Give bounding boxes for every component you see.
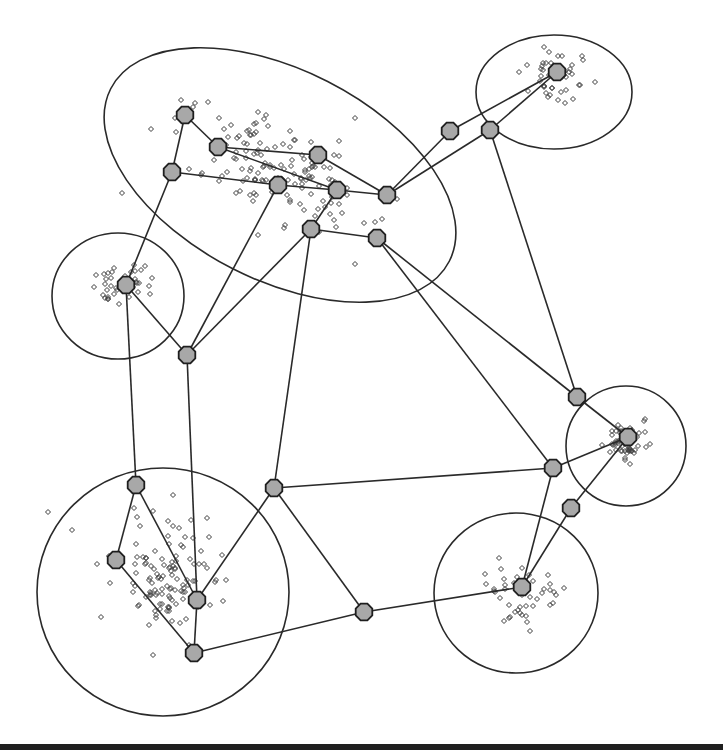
cluster-boundary-c2 bbox=[476, 35, 632, 149]
data-point bbox=[525, 63, 530, 68]
data-point bbox=[531, 579, 536, 584]
data-point bbox=[220, 553, 225, 558]
data-point bbox=[548, 582, 553, 587]
data-point bbox=[337, 202, 342, 207]
edge-n7-n11 bbox=[387, 130, 490, 195]
data-point bbox=[166, 534, 171, 539]
graph-node-n18 bbox=[563, 500, 580, 517]
data-point bbox=[183, 535, 188, 540]
data-point bbox=[174, 602, 179, 607]
data-point bbox=[550, 86, 555, 91]
data-point bbox=[535, 597, 540, 602]
data-point bbox=[524, 604, 529, 609]
data-point bbox=[571, 97, 576, 102]
graph-node-n19 bbox=[128, 477, 145, 494]
data-point bbox=[170, 619, 175, 624]
edge-n22-n24 bbox=[194, 612, 364, 653]
data-point bbox=[101, 293, 106, 298]
data-point bbox=[337, 139, 342, 144]
graph-node-n23 bbox=[266, 480, 283, 497]
data-point bbox=[502, 619, 507, 624]
data-point bbox=[166, 519, 171, 524]
graph-node-n13 bbox=[118, 277, 135, 294]
data-point bbox=[135, 555, 140, 560]
data-point bbox=[199, 549, 204, 554]
data-point bbox=[160, 592, 165, 597]
graph-node-n21 bbox=[189, 592, 206, 609]
data-point bbox=[226, 135, 231, 140]
graph-node-n22 bbox=[186, 645, 203, 662]
edge-n15-n16 bbox=[577, 397, 628, 437]
data-point bbox=[206, 100, 211, 105]
data-point bbox=[332, 218, 337, 223]
graph-node-n6 bbox=[329, 182, 346, 199]
graph-node-n4 bbox=[270, 177, 287, 194]
data-point bbox=[484, 582, 489, 587]
data-point bbox=[542, 45, 547, 50]
edge-n7-n10 bbox=[387, 131, 450, 195]
data-point bbox=[285, 193, 290, 198]
edge-n11-n12 bbox=[490, 72, 557, 130]
data-point bbox=[309, 140, 314, 145]
data-point bbox=[302, 208, 307, 213]
graph-node-n5 bbox=[310, 147, 327, 164]
data-point bbox=[337, 154, 342, 159]
graph-node-n10 bbox=[442, 123, 459, 140]
data-point bbox=[171, 524, 176, 529]
data-point bbox=[174, 130, 179, 135]
data-point bbox=[313, 214, 318, 219]
data-point bbox=[518, 605, 523, 610]
edge-n17-n25 bbox=[522, 468, 553, 587]
data-point bbox=[279, 163, 284, 168]
data-point bbox=[528, 629, 533, 634]
data-point bbox=[131, 590, 136, 595]
data-point bbox=[153, 549, 158, 554]
data-point bbox=[147, 623, 152, 628]
data-point bbox=[103, 282, 108, 287]
data-point bbox=[95, 562, 100, 567]
data-point bbox=[644, 445, 649, 450]
graph-node-n17 bbox=[545, 460, 562, 477]
data-point bbox=[497, 556, 502, 561]
data-point bbox=[353, 116, 358, 121]
data-point bbox=[181, 597, 186, 602]
data-point bbox=[245, 176, 250, 181]
data-point bbox=[147, 284, 152, 289]
edge-n8-n9 bbox=[311, 229, 377, 238]
data-point bbox=[256, 233, 261, 238]
data-point bbox=[273, 145, 278, 150]
cluster-boundary-c3 bbox=[52, 233, 184, 359]
data-point bbox=[309, 192, 314, 197]
data-point bbox=[353, 262, 358, 267]
data-point bbox=[150, 276, 155, 281]
graph-node-n7 bbox=[379, 187, 396, 204]
edge-n19-n21 bbox=[136, 485, 197, 600]
edge-n10-n12 bbox=[450, 72, 557, 131]
data-point bbox=[513, 610, 518, 615]
data-point bbox=[134, 571, 139, 576]
data-point bbox=[316, 207, 321, 212]
data-point bbox=[328, 212, 333, 217]
data-point bbox=[288, 129, 293, 134]
data-point bbox=[109, 284, 114, 289]
data-point bbox=[208, 603, 213, 608]
data-point bbox=[483, 572, 488, 577]
data-point bbox=[184, 617, 189, 622]
graph-node-n3 bbox=[164, 164, 181, 181]
edge-n19-n20 bbox=[116, 485, 136, 560]
data-point bbox=[217, 179, 222, 184]
data-point bbox=[550, 86, 555, 91]
data-point bbox=[225, 170, 230, 175]
data-point bbox=[205, 516, 210, 521]
data-point bbox=[507, 603, 512, 608]
graph-node-n8 bbox=[303, 221, 320, 238]
data-point bbox=[528, 595, 533, 600]
data-point bbox=[153, 588, 158, 593]
data-point bbox=[189, 518, 194, 523]
data-point bbox=[221, 599, 226, 604]
data-point bbox=[380, 217, 385, 222]
data-point bbox=[148, 292, 153, 297]
data-point bbox=[256, 110, 261, 115]
data-point bbox=[212, 158, 217, 163]
data-point bbox=[502, 577, 507, 582]
